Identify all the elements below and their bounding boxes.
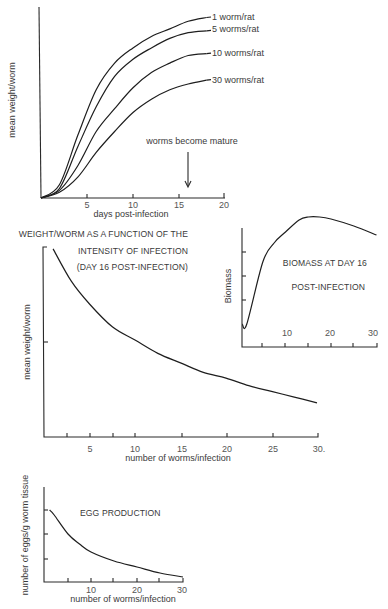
egg-y-label: number of eggs/g worm tissue <box>20 475 30 596</box>
series-line <box>41 31 207 198</box>
intensity-tick-25: 25 <box>268 444 278 454</box>
egg-title: EGG PRODUCTION <box>80 508 161 518</box>
biomass-title-line1: BIOMASS AT DAY 16 <box>283 258 367 268</box>
legend-5-worms: 5 worms/rat <box>212 24 260 34</box>
series-line <box>41 18 207 199</box>
growth-x-ticks <box>87 193 224 198</box>
legend-1-worm: 1 worm/rat <box>212 12 255 22</box>
intensity-title-line3: (DAY 16 POST-INFECTION) <box>77 262 188 272</box>
growth-x-label: days post-infection <box>93 209 168 219</box>
egg-chart: 10 20 30 number of worms/infection numbe… <box>20 475 187 604</box>
growth-tick-20: 20 <box>219 200 229 210</box>
egg-x-ticks <box>68 578 159 582</box>
legend-leader-line <box>207 17 211 18</box>
figure: 5 10 15 20 days post-infection mean weig… <box>0 0 388 609</box>
series-line <box>242 217 376 329</box>
growth-chart: 5 10 15 20 days post-infection mean weig… <box>7 7 265 219</box>
maturity-annotation: worms become mature <box>145 136 238 146</box>
intensity-title-line2: INTENSITY OF INFECTION <box>78 246 188 256</box>
biomass-tick-30: 30 <box>368 328 378 338</box>
legend-30-worms: 30 worms/rat <box>212 75 265 85</box>
biomass-tick-20: 20 <box>325 328 335 338</box>
intensity-tick-5: 5 <box>87 444 92 454</box>
legend-leader-line <box>207 30 211 31</box>
legend-leader-line <box>207 53 211 54</box>
intensity-x-ticks <box>67 433 273 437</box>
egg-tick-30: 30 <box>177 585 187 595</box>
growth-curves <box>41 17 211 198</box>
egg-curve <box>50 510 183 577</box>
egg-x-label: number of worms/infection <box>70 594 176 604</box>
intensity-y-label: mean weight/worm <box>22 304 32 380</box>
intensity-title-line1: WEIGHT/WORM AS A FUNCTION OF THE <box>19 229 188 239</box>
biomass-y-ticks <box>242 252 246 300</box>
intensity-x-label: number of worms/infection <box>125 453 231 463</box>
growth-y-axis <box>39 7 41 198</box>
intensity-axes <box>43 247 318 437</box>
growth-tick-15: 15 <box>174 200 184 210</box>
egg-y-ticks <box>44 510 48 559</box>
legend-leader-line <box>207 80 211 81</box>
intensity-tick-30: 30. <box>313 444 326 454</box>
biomass-curve <box>242 217 376 329</box>
growth-y-label: mean weight/worm <box>7 62 17 138</box>
growth-tick-5: 5 <box>84 200 89 210</box>
series-line <box>50 510 183 577</box>
biomass-tick-10: 10 <box>282 328 292 338</box>
arrow-down-icon <box>185 152 191 187</box>
intensity-chart: WEIGHT/WORM AS A FUNCTION OF THE INTENSI… <box>19 229 325 463</box>
egg-axes <box>44 487 183 582</box>
biomass-title-line2: POST-INFECTION <box>292 282 366 292</box>
biomass-y-label: Biomass <box>223 268 233 303</box>
biomass-x-ticks <box>262 343 353 347</box>
legend-10-worms: 10 worms/rat <box>212 48 265 58</box>
biomass-chart: 10 20 30 Biomass BIOMASS AT DAY 16 POST-… <box>223 217 378 347</box>
